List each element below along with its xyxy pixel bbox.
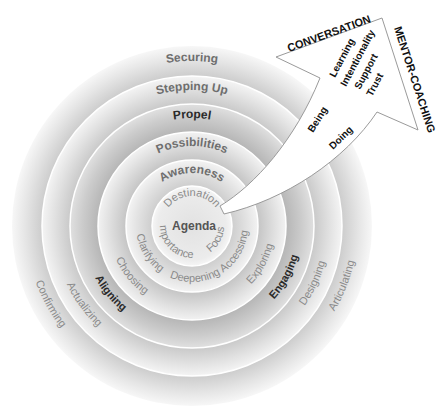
label-agenda: Agenda (172, 219, 216, 233)
label-securing: Securing (165, 50, 219, 66)
label-propel: Propel (172, 107, 212, 123)
svg-text:Propel: Propel (172, 107, 212, 123)
svg-text:Securing: Securing (165, 50, 219, 66)
mentor-coaching-diagram: Securing Stepping Up Propel Possibilitie… (0, 0, 443, 413)
